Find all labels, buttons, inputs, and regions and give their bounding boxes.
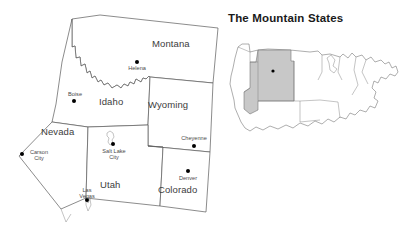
state-label-utah: Utah	[100, 179, 120, 190]
nevada-southern-tip	[61, 209, 71, 222]
city-label-boise: Boise	[62, 91, 88, 97]
state-label-nevada: Nevada	[41, 126, 74, 137]
city-label-line: Helena	[128, 65, 146, 71]
usa-locator-inset-graphic	[230, 44, 398, 131]
city-label-salt-lake-city: Salt Lake City	[96, 148, 132, 160]
city-dot-helena	[135, 60, 139, 64]
city-label-denver: Denver	[173, 175, 203, 181]
mountain-states-figure: The Mountain States	[0, 0, 403, 239]
city-label-line: Denver	[179, 175, 197, 181]
city-label-carson-city: Carson City	[24, 149, 54, 161]
state-label-montana: Montana	[152, 38, 190, 49]
state-label-colorado: Colorado	[158, 184, 197, 195]
city-label-line: Boise	[68, 91, 82, 97]
city-label-line: City	[24, 155, 54, 161]
city-label-line: City	[96, 154, 132, 160]
city-label-las-vegas: Las Vegas	[72, 187, 102, 199]
state-label-wyoming: Wyoming	[148, 99, 188, 110]
state-label-idaho: Idaho	[99, 96, 123, 107]
city-dot-cheyenne	[192, 144, 196, 148]
city-dot-salt-lake-city	[111, 142, 115, 146]
city-label-helena: Helena	[122, 65, 152, 71]
inset-center-marker	[271, 69, 274, 72]
city-dot-boise	[72, 99, 76, 103]
city-label-cheyenne: Cheyenne	[171, 135, 217, 141]
city-dot-denver	[186, 169, 190, 173]
city-label-line: Vegas	[72, 193, 102, 199]
map-vector-layer	[0, 0, 403, 239]
city-label-line: Cheyenne	[181, 135, 207, 141]
